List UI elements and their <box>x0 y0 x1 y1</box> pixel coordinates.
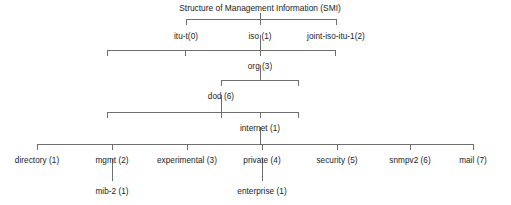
node-enterprise: enterprise (1) <box>237 187 286 197</box>
node-private: private (4) <box>243 156 280 166</box>
tree-connector-lines <box>0 0 511 205</box>
node-mail: mail (7) <box>459 156 487 166</box>
node-itu-t: itu-t(0) <box>174 32 198 42</box>
node-directory: directory (1) <box>15 156 59 166</box>
node-security: security (5) <box>316 156 357 166</box>
node-joint-iso-itu-1: joint-iso-itu-1(2) <box>307 32 365 42</box>
node-mgmt: mgmt (2) <box>95 156 128 166</box>
node-mib-2: mib-2 (1) <box>95 187 128 197</box>
smi-tree-diagram: Structure of Management Information (SMI… <box>0 0 511 205</box>
node-internet: internet (1) <box>240 124 280 134</box>
node-experimental: experimental (3) <box>157 156 217 166</box>
diagram-title: Structure of Management Information (SMI… <box>179 3 341 13</box>
node-org: org (3) <box>248 62 272 72</box>
node-dod: dod (6) <box>208 92 234 102</box>
node-snmpv2: snmpv2 (6) <box>389 156 430 166</box>
node-iso: iso (1) <box>248 32 271 42</box>
